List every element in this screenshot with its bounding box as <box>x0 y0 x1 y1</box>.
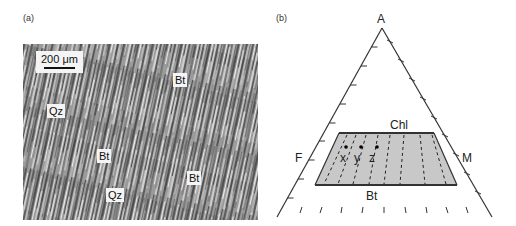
apex-label-m: M <box>462 151 472 165</box>
mineral-label-bt-3: Bt <box>187 171 201 185</box>
afm-ternary-diagram: x y z A F M Chl Bt <box>260 0 516 226</box>
panel-a-label: (a) <box>23 13 34 23</box>
scale-bar-label: 200 μm <box>41 53 78 65</box>
mineral-label-qz-2: Qz <box>106 188 124 202</box>
chl-bt-field <box>315 133 457 185</box>
mineral-label-bt-1: Bt <box>173 73 187 87</box>
point-x <box>344 145 348 149</box>
point-y-label: y <box>354 151 360 165</box>
phase-label-chl: Chl <box>390 118 408 132</box>
phase-label-bt: Bt <box>366 189 378 203</box>
bottom-ticks <box>300 207 468 213</box>
point-z <box>375 145 379 149</box>
apex-label-f: F <box>295 151 302 165</box>
apex-label-a: A <box>377 12 385 26</box>
point-y <box>359 145 363 149</box>
mineral-label-bt-2: Bt <box>97 149 111 163</box>
point-z-label: z <box>369 151 375 165</box>
scale-bar-line <box>44 67 75 69</box>
point-x-label: x <box>340 151 346 165</box>
mineral-label-qz-1: Qz <box>47 104 65 118</box>
scale-bar: 200 μm <box>36 51 83 73</box>
